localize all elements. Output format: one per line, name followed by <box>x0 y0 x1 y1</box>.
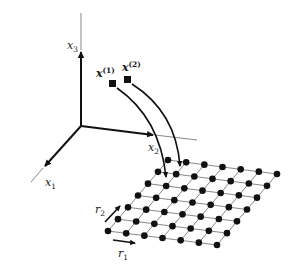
lattice-node <box>105 228 112 235</box>
lattice-node <box>236 192 243 199</box>
lattice-node <box>209 176 216 183</box>
x1-axis-label: x1 <box>45 176 56 191</box>
coordinate-axes <box>31 13 197 182</box>
lattice-node <box>183 159 190 166</box>
input-point-1-label: x(1) <box>95 66 115 80</box>
lattice-node <box>256 168 263 175</box>
lattice-node <box>181 185 188 192</box>
lattice-node <box>219 164 226 171</box>
mapping-arrows <box>117 84 180 177</box>
lattice-node <box>274 171 281 178</box>
x2-axis-extension <box>155 135 197 140</box>
lattice-node <box>196 239 203 246</box>
mapping-arrow-1 <box>117 88 166 177</box>
lattice-node <box>189 199 196 206</box>
lattice-node <box>141 232 148 239</box>
x1-axis-arrow <box>45 126 81 166</box>
x2-axis-label: x2 <box>148 141 159 156</box>
lattice-node <box>145 180 152 187</box>
r1-direction-arrow <box>113 240 135 243</box>
lattice-node <box>123 230 130 237</box>
x1-axis-extension <box>31 168 43 182</box>
input-point-2-marker <box>124 76 131 83</box>
lattice-node <box>224 230 231 237</box>
lattice-node <box>227 178 234 185</box>
lattice-node <box>169 223 176 230</box>
lattice-node <box>199 187 206 194</box>
lattice-node <box>244 206 251 213</box>
neuron-lattice <box>105 157 281 249</box>
lattice-node <box>191 173 198 180</box>
lattice-node <box>217 190 224 197</box>
lattice-node <box>171 197 178 204</box>
lattice-node <box>264 183 271 190</box>
lattice-node <box>197 213 204 220</box>
lattice-node <box>226 204 233 211</box>
lattice-node <box>173 171 180 178</box>
lattice-node <box>155 169 162 176</box>
lattice-node <box>165 157 172 164</box>
lattice-node <box>179 211 186 218</box>
lattice-node <box>153 195 160 202</box>
x2-axis-arrow <box>81 126 153 135</box>
lattice-node <box>163 183 170 190</box>
lattice-node <box>151 221 158 228</box>
lattice-node <box>254 194 261 201</box>
lattice-node <box>133 218 140 225</box>
lattice-node <box>214 242 221 249</box>
lattice-node <box>177 237 184 244</box>
som-diagram: x3 x2 x1 x(1) x(2) r2 r1 <box>0 0 293 269</box>
lattice-node <box>207 202 214 209</box>
lattice-node <box>206 228 213 235</box>
r2-direction-label: r2 <box>95 203 105 218</box>
lattice-node <box>143 206 150 213</box>
lattice-node <box>246 180 253 187</box>
lattice-node <box>237 166 244 173</box>
lattice-node <box>115 216 122 223</box>
lattice-node <box>201 161 208 168</box>
input-point-2-label: x(2) <box>121 60 141 74</box>
lattice-node <box>187 225 194 232</box>
lattice-node <box>125 204 132 211</box>
lattice-node <box>159 235 166 242</box>
r1-direction-label: r1 <box>118 247 128 262</box>
lattice-node <box>135 192 142 199</box>
x3-axis-label: x3 <box>67 39 78 54</box>
lattice-node <box>234 218 241 225</box>
input-point-1-marker <box>109 80 116 87</box>
lattice-node <box>161 209 168 216</box>
lattice-node <box>216 216 223 223</box>
